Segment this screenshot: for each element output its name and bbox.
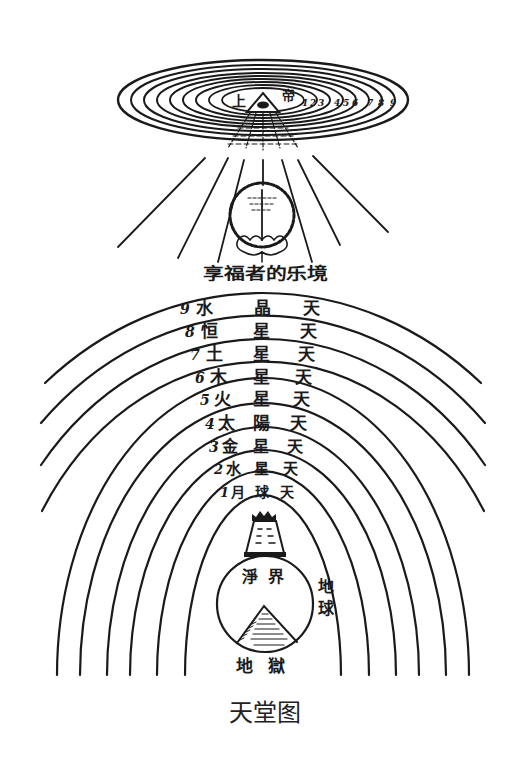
svg-text:9: 9 [390,98,397,108]
earth-globe [217,556,313,652]
svg-text:恒: 恒 [201,321,218,341]
svg-text:1: 1 [220,485,229,500]
sphere-5: 5 火 星 天 [200,389,311,409]
svg-text:4: 4 [205,416,215,432]
sphere-4: 4 太 陽 天 [205,413,308,433]
svg-text:星: 星 [253,344,270,364]
svg-text:水: 水 [226,460,242,478]
svg-text:木: 木 [209,367,228,387]
svg-text:天: 天 [295,367,313,387]
sphere-7: 7 土 星 天 [190,344,316,364]
svg-text:陽: 陽 [253,413,270,433]
svg-text:2: 2 [309,98,316,108]
label-di: 帝 [282,88,295,103]
sphere-8: 8 恒 星 天 [185,321,318,341]
heaven-diagram: 上 帝 1 2 3 4 5 6 7 8 9 享福者的乐境 [0,0,530,765]
svg-text:4: 4 [334,98,340,108]
svg-text:天: 天 [298,344,316,364]
blessed-label: 享福者的乐境 [203,264,328,283]
hell-label-a: 地 [236,656,253,676]
svg-text:8: 8 [185,324,195,340]
earth-label-b: 球 [318,599,335,618]
svg-text:3: 3 [209,439,219,455]
svg-text:月: 月 [230,484,245,500]
purgatory-label-a: 淨 [242,567,258,586]
sphere-2: 2 水 星 天 [213,460,299,478]
svg-text:金: 金 [221,437,239,456]
label-shang: 上 [232,93,246,109]
svg-text:5: 5 [343,98,349,108]
svg-text:5: 5 [200,392,210,408]
svg-text:天: 天 [293,389,311,409]
svg-text:6: 6 [195,370,205,386]
svg-text:球: 球 [255,484,270,500]
purgatory-mountain-icon [244,511,286,557]
svg-text:天: 天 [290,413,308,433]
svg-text:太: 太 [218,413,236,433]
blessed-circle [230,183,294,262]
divine-light-cone [228,113,298,150]
svg-text:天: 天 [300,321,318,341]
svg-text:2: 2 [213,462,223,477]
sphere-6: 6 木 星 天 [195,367,313,387]
svg-text:星: 星 [253,389,270,409]
svg-text:星: 星 [253,437,269,456]
earth-label-a: 地 [318,577,334,596]
sphere-3: 3 金 星 天 [209,437,304,456]
svg-text:天: 天 [283,460,299,478]
svg-text:9: 9 [180,301,190,317]
svg-text:晶: 晶 [254,298,271,318]
sphere-1: 1 月 球 天 [220,484,295,500]
svg-text:土: 土 [206,344,223,364]
svg-text:1: 1 [302,98,308,108]
svg-text:7: 7 [367,98,374,108]
figure-caption: 天堂图 [0,693,530,728]
svg-text:星: 星 [253,367,270,387]
svg-text:8: 8 [378,98,385,108]
svg-text:火: 火 [214,389,232,409]
svg-text:6: 6 [352,98,359,108]
eye-of-god-icon [247,93,279,112]
ring-numbers: 1 2 3 4 5 6 7 8 9 [302,98,397,108]
svg-text:3: 3 [318,98,324,108]
svg-text:天: 天 [287,437,304,456]
hell-mountain-icon [237,606,297,645]
svg-text:星: 星 [254,460,269,478]
svg-text:天: 天 [303,298,321,318]
svg-text:7: 7 [190,347,200,363]
svg-text:天: 天 [280,484,295,500]
svg-text:星: 星 [253,321,270,341]
svg-text:水: 水 [196,298,214,318]
purgatory-label-b: 界 [268,567,284,586]
hell-label-b: 獄 [267,656,285,676]
sphere-labels: 9 水 晶 天 8 恒 星 天 7 土 星 天 6 木 星 天 5 火 星 天 [180,298,321,500]
